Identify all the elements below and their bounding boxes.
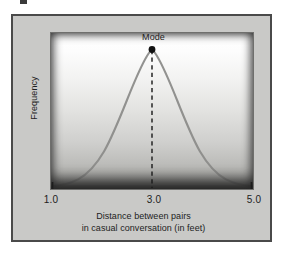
x-axis-caption-line-1: Distance between pairs (13, 210, 274, 222)
y-axis-label: Frequency (29, 58, 39, 138)
mode-label: Mode (13, 32, 274, 42)
x-axis-caption-line-2: in casual conversation (in feet) (13, 222, 274, 234)
x-tick-label-5: 5.0 (234, 194, 274, 205)
x-tick-label-1: 1.0 (31, 194, 71, 205)
figure-frame: Mode Frequency 1.0 3.0 5.0 Distance betw… (11, 14, 272, 242)
cropped-glyph-fragment (20, 0, 27, 4)
x-axis-caption: Distance between pairs in casual convers… (13, 210, 274, 234)
mode-peak-dot (149, 46, 156, 53)
x-tick-label-3: 3.0 (134, 194, 174, 205)
mode-label-text: Mode (142, 32, 165, 42)
distribution-curve-svg (50, 32, 254, 190)
plot-area (50, 32, 254, 190)
